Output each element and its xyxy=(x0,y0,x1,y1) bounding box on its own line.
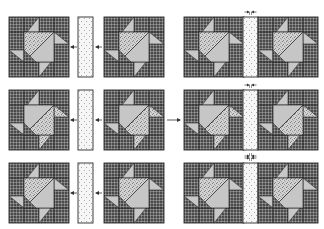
row-2 xyxy=(9,83,318,157)
row-1-left-block xyxy=(9,17,69,77)
row-3-sashing-strip xyxy=(78,163,93,223)
row-3-right-block xyxy=(104,163,164,223)
row-2-arrow-right-icon xyxy=(95,118,102,122)
row-1 xyxy=(9,10,318,77)
row-3-arrow-left-icon xyxy=(70,191,77,195)
row-3-left-block xyxy=(9,163,69,223)
row-2-result-arrow-icon xyxy=(167,118,181,122)
row-1-press-arrows-icon xyxy=(245,10,257,15)
row-1-arrow-left-icon xyxy=(70,45,77,49)
row-3 xyxy=(9,156,318,223)
row-3-press-arrows-icon xyxy=(245,156,257,161)
row-2-arrow-left-icon xyxy=(70,118,77,122)
row-1-sashing-strip xyxy=(78,17,93,77)
row-2-right-block xyxy=(104,90,164,150)
row-3-joined-result xyxy=(184,156,318,223)
row-2-press-arrows-bottom-icon xyxy=(245,153,257,158)
row-2-press-arrows-top-icon xyxy=(245,83,257,88)
row-3-arrow-right-icon xyxy=(95,191,102,195)
quilt-assembly-diagram xyxy=(0,0,324,229)
row-2-joined-result xyxy=(184,83,318,157)
row-1-right-block xyxy=(104,17,164,77)
row-2-sashing-strip xyxy=(78,90,93,150)
row-2-left-block xyxy=(9,90,69,150)
row-1-joined-result xyxy=(184,10,318,77)
row-1-arrow-right-icon xyxy=(95,45,102,49)
